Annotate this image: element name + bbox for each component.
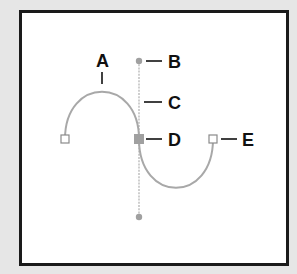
curve-segment-upper	[65, 92, 139, 139]
anchor-point-right[interactable]	[209, 135, 217, 143]
label-c: C	[168, 93, 181, 113]
label-a: A	[96, 51, 109, 71]
label-e: E	[242, 130, 254, 150]
label-d: D	[168, 130, 181, 150]
anchor-point-left[interactable]	[61, 135, 69, 143]
label-b: B	[168, 52, 181, 72]
anchor-point-selected[interactable]	[134, 134, 144, 144]
bezier-diagram: A B C D E	[0, 0, 297, 274]
direction-point-top[interactable]	[136, 58, 142, 64]
direction-point-bottom[interactable]	[136, 214, 142, 220]
